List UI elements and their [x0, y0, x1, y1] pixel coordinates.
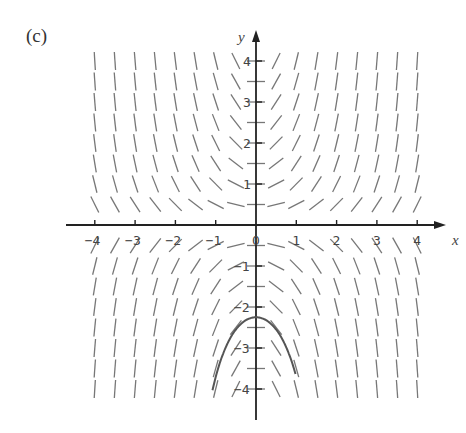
x-tick-label: −4 [85, 233, 101, 248]
x-tick-label: 2 [333, 233, 341, 248]
y-tick-label: 2 [243, 136, 251, 151]
axes [66, 38, 440, 420]
panel-label: (c) [26, 25, 47, 47]
y-tick-label: 3 [243, 95, 251, 110]
x-tick-label: 3 [373, 233, 381, 248]
y-axis-arrow-icon [252, 30, 260, 42]
slope-field-figure: (c) −4−3−2−1012344321−1−2−3−4xy [0, 0, 466, 433]
y-axis-label: y [236, 29, 245, 45]
solution-curve [213, 317, 296, 390]
y-tick-label: 4 [243, 54, 251, 69]
x-tick-label: 4 [413, 233, 421, 248]
y-tick-label: 1 [243, 177, 251, 192]
x-tick-label: −2 [165, 233, 181, 248]
y-tick-label: −4 [234, 382, 250, 397]
y-tick-label: −1 [234, 259, 250, 274]
x-axis-arrow-icon [434, 221, 446, 229]
y-tick-label: −2 [234, 300, 250, 315]
x-axis-label: x [451, 232, 459, 248]
x-tick-label: 1 [292, 233, 300, 248]
x-tick-label: 0 [252, 233, 260, 248]
x-tick-label: −3 [125, 233, 141, 248]
slope-field-plot: −4−3−2−1012344321−1−2−3−4xy [0, 0, 466, 433]
y-tick-label: −3 [234, 341, 250, 356]
x-tick-label: −1 [206, 233, 222, 248]
